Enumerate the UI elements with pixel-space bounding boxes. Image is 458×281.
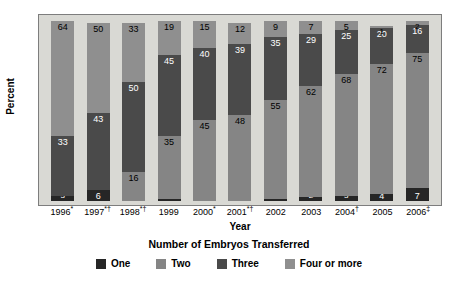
chart-figure: Percent 33364643501650331354519454015483… [0,0,458,281]
bar-value-label: 9 [264,22,287,32]
bar-value-label: 20 [370,29,393,39]
legend-swatch-icon [96,259,106,269]
bar-segment: 68 [335,74,358,195]
bar-value-label: 45 [158,56,181,66]
bar-segment: 3 [335,196,358,201]
bar-segment: 55 [264,100,287,199]
bar-stack: 775162 [406,21,429,201]
bar-segment: 2 [406,21,429,25]
bar-segment: 3 [51,196,74,201]
bar-segment: 64 [51,21,74,136]
bar-value-label: 40 [193,49,216,59]
bar-segment: 50 [87,23,110,113]
bar-segment: 43 [87,113,110,190]
bar-value-label: 48 [228,116,251,126]
bar-segment: 40 [193,48,216,120]
legend-item: Three [217,258,259,269]
legend-item: Four or more [285,258,362,269]
x-tick-label: 1999 [151,207,187,218]
bar-value-label: 45 [193,121,216,131]
bar-column: 472201 [364,21,399,201]
bar-column: 368255 [329,21,364,201]
bar-segment: 1 [158,199,181,201]
bar-value-label: 62 [299,87,322,97]
bar-column: 262297 [293,21,328,201]
bar-value-label: 64 [51,22,74,32]
bar-stack: 454015 [193,21,216,201]
bar-segment: 15 [193,21,216,48]
bar-value-label: 29 [299,35,322,45]
legend-label: Three [232,258,259,269]
bar-segment: 33 [122,23,145,82]
bar-segment: 7 [299,21,322,34]
x-tick-label: 1998*† [115,207,151,218]
y-axis-title-text: Percent [5,78,16,115]
bar-value-label: 68 [335,75,358,85]
bar-value-label: 72 [370,65,393,75]
legend-label: Two [171,258,190,269]
bar-column: 1354519 [151,21,186,201]
bar-value-label: 35 [158,137,181,147]
bar-segment: 72 [370,64,393,194]
bar-segment: 6 [87,190,110,201]
bar-column: 155359 [258,21,293,201]
bar-segment: 19 [158,21,181,55]
bar-segment: 20 [370,28,393,64]
bar-column: 483912 [222,21,257,201]
bar-segment: 48 [228,115,251,201]
bar-stack: 1354519 [158,21,181,201]
bar-value-label: 39 [228,45,251,55]
bar-value-label: 12 [228,24,251,34]
bar-segment: 39 [228,44,251,114]
bar-stack: 33364 [51,21,74,201]
x-axis-tick-labels: 1996*1997*†1998*†19992000*2001*†20022003… [38,207,442,218]
bar-segment: 12 [228,23,251,45]
x-tick-label: 2003 [293,207,329,218]
legend-item: Two [156,258,190,269]
bar-value-label: 6 [87,191,110,201]
legend-swatch-icon [217,259,227,269]
bar-segment: 25 [335,30,358,75]
x-tick-label: 1997*† [80,207,116,218]
legend-swatch-icon [156,259,166,269]
bar-segment: 16 [122,172,145,201]
bar-segment: 9 [264,21,287,37]
bar-group: 3336464350165033135451945401548391215535… [39,15,441,205]
chart-legend: OneTwoThreeFour or more [0,258,458,269]
bar-stack: 64350 [87,21,110,201]
bar-value-label: 75 [406,54,429,64]
legend-label: Four or more [300,258,362,269]
bar-value-label: 33 [51,137,74,147]
bar-value-label: 33 [122,24,145,34]
bar-value-label: 55 [264,101,287,111]
bar-segment: 1 [370,26,393,28]
bar-column: 165033 [116,21,151,201]
bar-segment: 75 [406,53,429,188]
x-tick-label: 2002 [258,207,294,218]
bar-value-label: 50 [87,24,110,34]
bar-segment: 45 [158,55,181,136]
bar-value-label: 19 [158,22,181,32]
bar-value-label: 16 [406,26,429,36]
x-tick-label: 2001*† [222,207,258,218]
bar-value-label: 7 [406,191,429,201]
bar-stack: 483912 [228,21,251,201]
bar-stack: 368255 [335,21,358,201]
bar-value-label: 43 [87,114,110,124]
bar-segment: 35 [158,136,181,199]
bar-segment: 4 [370,194,393,201]
bar-value-label: 35 [264,38,287,48]
bar-segment: 45 [193,120,216,201]
x-tick-label: 2000* [187,207,223,218]
bar-value-label: 25 [335,31,358,41]
x-tick-label: 2006‡ [400,207,436,218]
x-tick-label: 2005 [365,207,401,218]
legend-label: One [111,258,130,269]
bar-value-label: 7 [299,22,322,32]
legend-item: One [96,258,130,269]
plot-area: 3336464350165033135451945401548391215535… [38,14,442,206]
bar-segment: 50 [122,82,145,172]
bar-segment: 16 [406,25,429,54]
bar-value-label: 50 [122,83,145,93]
bar-segment: 29 [299,34,322,86]
